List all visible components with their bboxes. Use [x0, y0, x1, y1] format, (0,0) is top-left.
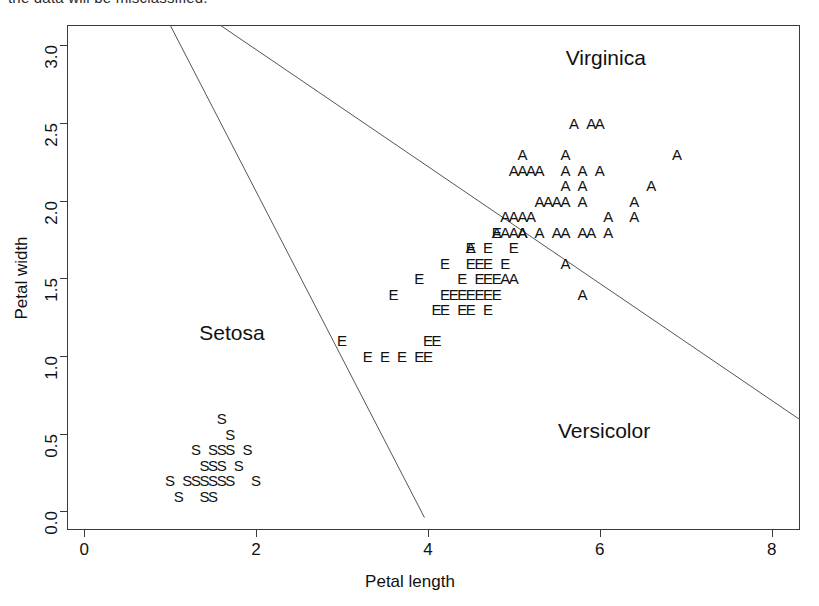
data-point-setosa: S — [217, 457, 227, 472]
y-tick-label: 1.5 — [42, 278, 62, 302]
data-point-virginica: A — [560, 146, 570, 161]
x-tick-mark — [428, 530, 429, 537]
x-tick-mark — [772, 530, 773, 537]
data-point-versicolor: E — [483, 240, 493, 255]
y-tick-label: 3.0 — [42, 45, 62, 69]
x-tick-mark — [84, 530, 85, 537]
data-point-versicolor: E — [431, 333, 441, 348]
data-point-setosa: S — [174, 488, 184, 503]
data-point-virginica: A — [569, 115, 579, 130]
data-point-virginica: A — [466, 240, 476, 255]
data-point-virginica: A — [517, 224, 527, 239]
y-axis-title: Petal width — [12, 236, 32, 319]
data-point-versicolor: E — [397, 348, 407, 363]
data-point-virginica: A — [560, 162, 570, 177]
data-point-setosa: S — [225, 426, 235, 441]
data-point-virginica: A — [560, 178, 570, 193]
data-point-setosa: S — [225, 473, 235, 488]
data-point-versicolor: E — [380, 348, 390, 363]
data-point-versicolor: E — [389, 286, 399, 301]
region-label-setosa: Setosa — [199, 321, 264, 345]
data-point-virginica: A — [535, 162, 545, 177]
data-point-setosa: S — [191, 442, 201, 457]
data-point-virginica: A — [578, 178, 588, 193]
data-point-virginica: A — [586, 224, 596, 239]
data-point-virginica: A — [629, 209, 639, 224]
data-point-virginica: A — [603, 209, 613, 224]
data-point-versicolor: E — [423, 348, 433, 363]
data-point-versicolor: E — [440, 302, 450, 317]
data-point-versicolor: E — [457, 271, 467, 286]
region-label-versicolor: Versicolor — [558, 419, 650, 443]
x-tick-label: 6 — [595, 540, 604, 560]
data-point-versicolor: E — [509, 240, 519, 255]
data-point-virginica: A — [603, 224, 613, 239]
y-tick-label: 2.5 — [42, 123, 62, 147]
data-point-virginica: A — [560, 193, 570, 208]
data-point-versicolor: E — [483, 255, 493, 270]
data-point-versicolor: E — [414, 271, 424, 286]
data-point-virginica: A — [500, 224, 510, 239]
data-point-versicolor: E — [483, 302, 493, 317]
data-point-virginica: A — [535, 224, 545, 239]
data-point-virginica: A — [560, 255, 570, 270]
data-point-virginica: A — [509, 271, 519, 286]
iris-scatter-figure: 02468 0.00.51.01.52.02.53.0 SSSSSSSSSSSS… — [0, 0, 819, 606]
x-tick-label: 4 — [423, 540, 432, 560]
x-tick-label: 8 — [767, 540, 776, 560]
data-point-setosa: S — [165, 473, 175, 488]
data-point-setosa: S — [234, 457, 244, 472]
x-tick-mark — [600, 530, 601, 537]
data-point-setosa: S — [225, 442, 235, 457]
data-point-versicolor: E — [500, 255, 510, 270]
x-tick-label: 2 — [251, 540, 260, 560]
decision-boundary-layer — [0, 0, 819, 606]
y-tick-label: 1.0 — [42, 356, 62, 380]
y-tick-label: 0.5 — [42, 434, 62, 458]
data-point-virginica: A — [646, 178, 656, 193]
data-point-setosa: S — [251, 473, 261, 488]
data-point-setosa: S — [217, 411, 227, 426]
data-point-virginica: A — [629, 193, 639, 208]
x-axis-title: Petal length — [365, 572, 455, 592]
x-tick-mark — [256, 530, 257, 537]
region-label-virginica: Virginica — [566, 46, 646, 70]
y-tick-label: 2.0 — [42, 201, 62, 225]
data-point-virginica: A — [578, 224, 588, 239]
data-point-virginica: A — [595, 162, 605, 177]
data-point-virginica: A — [578, 286, 588, 301]
y-tick-label: 0.0 — [42, 511, 62, 535]
data-point-virginica: A — [672, 146, 682, 161]
data-point-virginica: A — [578, 162, 588, 177]
x-tick-label: 0 — [79, 540, 88, 560]
data-point-virginica: A — [560, 224, 570, 239]
data-point-virginica: A — [517, 146, 527, 161]
data-point-versicolor: E — [492, 286, 502, 301]
data-point-virginica: A — [526, 209, 536, 224]
data-point-setosa: S — [208, 488, 218, 503]
data-point-versicolor: E — [363, 348, 373, 363]
data-point-versicolor: E — [440, 255, 450, 270]
data-point-setosa: S — [242, 442, 252, 457]
data-point-virginica: A — [578, 193, 588, 208]
data-point-versicolor: E — [466, 302, 476, 317]
data-point-virginica: A — [595, 115, 605, 130]
data-point-versicolor: E — [337, 333, 347, 348]
